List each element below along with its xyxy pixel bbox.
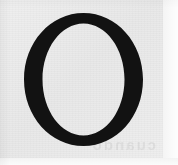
letterform-layer: [0, 0, 178, 165]
scan-margin-right: [163, 0, 178, 165]
capital-letter-o-glyph: [0, 0, 178, 165]
scanned-image-canvas: cuando: [0, 0, 178, 165]
letter-o-outline: [24, 13, 143, 146]
scan-margin-bottom: [0, 158, 178, 165]
